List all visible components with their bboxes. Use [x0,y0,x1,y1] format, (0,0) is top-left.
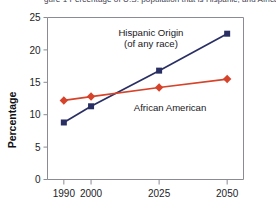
x-tick-label: 1990 [53,188,76,199]
x-tick-label: 2000 [80,188,103,199]
data-series [60,75,232,105]
line-chart: Percentage 0510152025 1990200020252050 H… [0,0,276,219]
data-point-marker [155,83,163,91]
y-tick-label: 10 [29,109,41,120]
y-tick-label: 15 [29,77,41,88]
y-axis-title-text: Percentage [6,92,18,149]
y-tick-label: 25 [29,12,41,23]
y-tick-label: 5 [35,142,41,153]
data-point-marker [224,31,230,37]
series-annotation-label: Hispanic Origin [118,27,183,38]
data-point-marker [88,103,94,109]
y-axis-title: Percentage [6,92,18,149]
chart-container: gure 1 Percentage of U.S. population tha… [0,0,276,219]
x-axis-ticks: 1990200020252050 [53,180,239,199]
series-annotation-label: (of any race) [124,38,178,49]
x-tick-label: 2025 [148,188,171,199]
data-point-marker [87,92,95,100]
data-point-marker [156,68,162,74]
x-tick-label: 2050 [216,188,239,199]
y-axis-ticks: 0510152025 [29,12,47,185]
data-point-marker [60,96,68,104]
y-tick-label: 0 [35,174,41,185]
data-point-marker [61,119,67,125]
series-annotation-label: African American [134,102,207,113]
figure-caption-clipped: gure 1 Percentage of U.S. population tha… [44,0,276,4]
data-point-marker [223,75,231,83]
y-tick-label: 20 [29,45,41,56]
